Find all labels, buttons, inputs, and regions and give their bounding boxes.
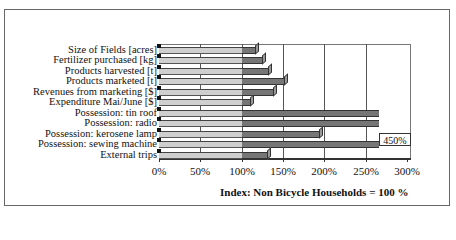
bar-base-segment xyxy=(159,99,242,106)
bar-start-cap xyxy=(157,128,161,132)
x-tick-label: 300% xyxy=(394,165,420,177)
bar-base-segment xyxy=(159,89,242,96)
bar-excess-segment xyxy=(242,68,269,75)
category-label: Products marketed [t] xyxy=(66,76,157,86)
bar-excess-segment xyxy=(242,89,274,96)
bar-base-segment xyxy=(159,152,242,159)
bar-excess-segment xyxy=(242,131,321,138)
x-tick-label: 50% xyxy=(190,165,210,177)
bar-base-segment xyxy=(159,47,242,54)
x-tick-label: 150% xyxy=(270,165,296,177)
bar-excess-segment xyxy=(242,78,285,85)
category-label: External trips xyxy=(100,150,157,160)
bar-excess-segment xyxy=(242,110,379,117)
bar-excess-segment xyxy=(242,141,379,148)
bar-excess-segment xyxy=(242,47,256,54)
x-tick xyxy=(366,158,367,162)
x-tick-label: 200% xyxy=(311,165,337,177)
bar-excess-segment xyxy=(242,120,379,127)
bar-start-cap xyxy=(157,138,161,142)
bar-start-cap xyxy=(157,75,161,79)
bar-start-cap xyxy=(157,149,161,153)
bar-base-segment xyxy=(159,110,242,117)
bar-base-segment xyxy=(159,78,242,85)
bar-start-cap xyxy=(157,117,161,121)
category-label: Possession: sewing machine xyxy=(38,139,157,149)
bar-start-cap xyxy=(157,65,161,69)
bar-base-segment xyxy=(159,57,242,64)
category-label: Expenditure Mai/June [$] xyxy=(49,97,157,107)
bar-excess-segment xyxy=(242,57,264,64)
x-tick xyxy=(324,158,325,162)
overflow-value-label: 450% xyxy=(379,133,411,146)
category-label: Possession: radio xyxy=(84,118,157,128)
bar-base-segment xyxy=(159,120,242,127)
bar-excess-segment xyxy=(242,152,268,159)
x-tick xyxy=(283,158,284,162)
bar-start-cap xyxy=(157,54,161,58)
bar-base-segment xyxy=(159,68,242,75)
bar-base-segment xyxy=(159,141,242,148)
category-label: Fertilizer purchased [kg] xyxy=(53,55,157,65)
x-axis-title: Index: Non Bicycle Households = 100 % xyxy=(220,186,408,198)
x-tick-label: 100% xyxy=(229,165,255,177)
bar-base-segment xyxy=(159,131,242,138)
bar-start-cap xyxy=(157,96,161,100)
x-tick xyxy=(407,158,408,162)
bar-start-cap xyxy=(157,44,161,48)
x-tick-label: 250% xyxy=(353,165,379,177)
x-tick-label: 0% xyxy=(152,165,167,177)
bar-start-cap xyxy=(157,86,161,90)
bar-start-cap xyxy=(157,107,161,111)
